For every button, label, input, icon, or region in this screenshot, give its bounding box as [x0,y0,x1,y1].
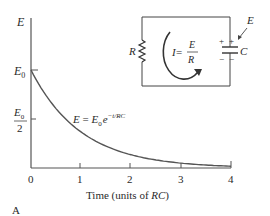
voltage-arrowhead [238,35,242,40]
current-eq-num: E [188,39,195,50]
x-tick-label-2: 2 [127,173,133,185]
circuit-wire [142,17,230,47]
x-tick-label-4: 4 [228,173,234,185]
x-axis-label: Time (units of RC) [86,189,169,202]
equation-label: E = E0e−t/RC [72,112,125,128]
current-eq-den: R [187,54,194,65]
y-axis-label: E [16,15,25,29]
x-tick-label-0: 0 [28,173,34,185]
plus-sign-left: + [219,36,224,46]
minus-sign-right: − [229,54,234,64]
rc-discharge-figure: E E0 E0 2 0 1 2 3 4 Time (units of RC) E… [0,0,270,216]
panel-label: A [12,204,20,216]
voltage-label: E [246,14,254,26]
y-tick-label-e0-half-den: 2 [17,122,23,134]
y-tick-label-e0: E0 [13,64,25,80]
x-tick-label-1: 1 [77,173,83,185]
capacitor-label: C [240,45,248,57]
current-eq-equals: = [176,46,182,58]
minus-sign-left: − [219,54,224,64]
resistor-icon [139,40,145,62]
rc-circuit: + + − − R C E I = E R [128,14,254,86]
x-tick-label-3: 3 [178,173,184,185]
y-tick-label-e0-half-num: E0 [13,106,25,121]
circuit-wire-bottom [142,53,230,86]
decay-curve [31,70,231,166]
plus-sign-right: + [229,36,234,46]
resistor-label: R [128,45,136,57]
